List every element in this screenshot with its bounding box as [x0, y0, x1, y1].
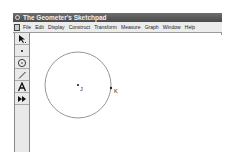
point-tool[interactable] [15, 45, 29, 57]
custom-tool[interactable] [15, 93, 29, 105]
menu-file[interactable]: File [23, 22, 31, 32]
menu-construct[interactable]: Construct [69, 22, 90, 32]
title-bar: The Geometer's Sketchpad [13, 13, 222, 22]
menu-measure[interactable]: Measure [121, 22, 140, 32]
sketch-canvas[interactable]: J K [30, 33, 222, 152]
text-A-icon [17, 82, 27, 92]
window-edge [221, 32, 222, 35]
menu-transform[interactable]: Transform [94, 22, 117, 32]
circle-icon [17, 58, 27, 68]
label-K[interactable]: K [114, 88, 118, 94]
straightedge-tool[interactable] [15, 69, 29, 81]
label-J[interactable]: J [80, 86, 83, 92]
compass-tool[interactable] [15, 57, 29, 69]
point-icon [17, 46, 27, 56]
menu-edit[interactable]: Edit [35, 22, 44, 32]
menu-window[interactable]: Window [163, 22, 181, 32]
arrow-icon [17, 34, 27, 44]
window-title: The Geometer's Sketchpad [23, 13, 107, 22]
menu-bar: File Edit Display Construct Transform Me… [13, 22, 222, 33]
toolbox [14, 33, 30, 152]
radius-point-K[interactable] [110, 87, 112, 89]
menu-graph[interactable]: Graph [145, 22, 159, 32]
sketchpad-window: The Geometer's Sketchpad File Edit Displ… [13, 13, 222, 153]
menu-help[interactable]: Help [185, 22, 195, 32]
double-arrow-icon [17, 94, 27, 104]
menu-display[interactable]: Display [48, 22, 64, 32]
document-icon[interactable] [14, 24, 20, 31]
selection-arrow-tool[interactable] [15, 33, 29, 45]
sketch-drawing [30, 33, 222, 152]
center-point-J[interactable] [77, 84, 79, 86]
text-tool[interactable] [15, 81, 29, 93]
app-icon [15, 15, 20, 20]
line-segment-icon [17, 70, 27, 80]
